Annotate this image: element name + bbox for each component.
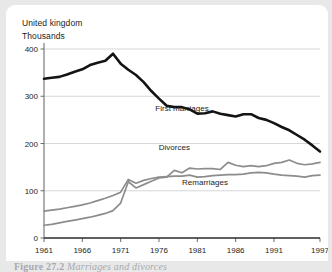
svg-text:1991: 1991 bbox=[265, 246, 283, 255]
figure-caption: Figure 27.2 Marriages and divorces bbox=[14, 261, 167, 272]
gridlines-group bbox=[44, 49, 320, 191]
svg-text:1997: 1997 bbox=[311, 246, 328, 255]
svg-text:1966: 1966 bbox=[73, 246, 91, 255]
data-series-group bbox=[44, 54, 320, 226]
y-axis-ticks-group: 0100200300400 bbox=[25, 45, 44, 243]
figure-caption-number: Figure 27.2 bbox=[14, 261, 64, 272]
svg-text:1961: 1961 bbox=[35, 246, 53, 255]
svg-text:300: 300 bbox=[25, 92, 39, 101]
svg-text:1971: 1971 bbox=[112, 246, 130, 255]
series-label-first-marriages: First marriages bbox=[155, 104, 208, 113]
svg-text:100: 100 bbox=[25, 187, 39, 196]
svg-text:200: 200 bbox=[25, 140, 39, 149]
svg-text:1986: 1986 bbox=[227, 246, 245, 255]
svg-text:1976: 1976 bbox=[150, 246, 168, 255]
svg-text:400: 400 bbox=[25, 45, 39, 54]
figure-caption-text: Marriages and divorces bbox=[67, 261, 167, 272]
chart-plot-area: 0100200300400 19611966197119761981198619… bbox=[6, 5, 328, 261]
line-chart-svg: 0100200300400 19611966197119761981198619… bbox=[6, 5, 328, 261]
figure-card: United kingdom Thousands 0100200300400 1… bbox=[6, 5, 328, 261]
svg-text:0: 0 bbox=[34, 234, 39, 243]
series-label-remarriages: Remarriages bbox=[182, 178, 228, 187]
x-axis-ticks-group: 19611966197119761981198619911997 bbox=[35, 238, 328, 255]
series-label-divorces: Divorces bbox=[159, 143, 190, 152]
svg-text:1981: 1981 bbox=[188, 246, 206, 255]
axis-lines-group bbox=[44, 43, 320, 238]
